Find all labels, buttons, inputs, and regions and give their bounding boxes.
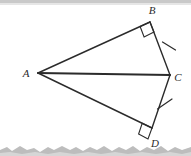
segment-AB (38, 22, 150, 73)
segment-AC (38, 73, 170, 75)
right-angle-at-D-icon (139, 123, 152, 139)
segment-AD (38, 73, 152, 128)
scan-top-band-fade (0, 3, 191, 5)
geometry-figure: A B C D (0, 0, 191, 156)
vertex-label-C: C (174, 71, 182, 83)
segment-DC (152, 75, 170, 128)
tick-on-BC (163, 42, 176, 50)
scan-top-band (0, 0, 191, 3)
vertex-label-D: D (150, 137, 159, 149)
diagram-page: A B C D (0, 0, 191, 156)
vertex-label-B: B (149, 4, 156, 16)
right-angle-at-B-icon (140, 22, 154, 37)
vertex-label-A: A (22, 67, 30, 79)
